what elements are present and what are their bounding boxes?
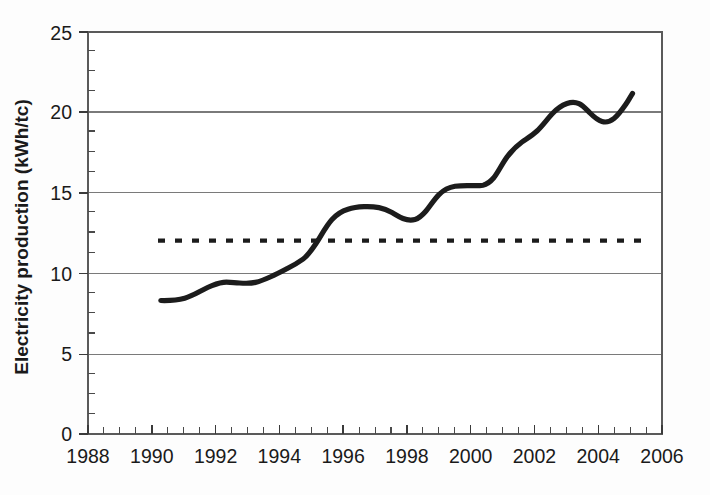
y-tick-label: 25 bbox=[50, 22, 72, 44]
y-axis-title: Electricity production (kWh/tc) bbox=[11, 99, 32, 375]
y-axis-tick-labels: 0 5 10 15 20 25 bbox=[50, 22, 72, 446]
x-tick-label: 2006 bbox=[640, 445, 683, 467]
y-tick-label: 20 bbox=[50, 101, 72, 123]
chart-figure: 0 5 10 15 20 25 1988 1990 1992 1994 1996… bbox=[0, 0, 710, 495]
electricity-production-line-chart: 0 5 10 15 20 25 1988 1990 1992 1994 1996… bbox=[0, 0, 710, 495]
x-tick-label: 2000 bbox=[449, 445, 493, 467]
x-tick-label: 1998 bbox=[385, 445, 428, 467]
x-tick-label: 1994 bbox=[258, 445, 302, 467]
x-tick-label: 1996 bbox=[321, 445, 364, 467]
x-tick-label: 1990 bbox=[130, 445, 174, 467]
x-tick-label: 1992 bbox=[194, 445, 237, 467]
x-tick-label: 1988 bbox=[66, 445, 109, 467]
plot-background bbox=[88, 32, 662, 434]
x-tick-label: 2004 bbox=[577, 445, 621, 467]
y-tick-label: 15 bbox=[50, 182, 72, 204]
y-tick-label: 10 bbox=[50, 263, 72, 285]
y-axis-major-ticks bbox=[79, 32, 88, 434]
x-axis-tick-labels: 1988 1990 1992 1994 1996 1998 2000 2002 … bbox=[66, 445, 683, 467]
y-tick-label: 5 bbox=[61, 343, 72, 365]
y-tick-label: 0 bbox=[61, 423, 72, 445]
x-tick-label: 2002 bbox=[513, 445, 556, 467]
